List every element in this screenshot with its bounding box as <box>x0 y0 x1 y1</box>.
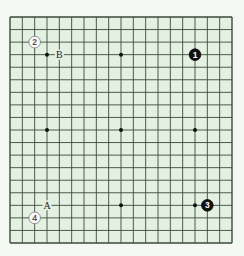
star-point <box>45 53 49 57</box>
stone-number: 3 <box>205 200 210 210</box>
star-point <box>119 128 123 132</box>
go-board: BA1234 <box>0 0 244 256</box>
stone-number: 2 <box>32 37 37 47</box>
stone-number: 1 <box>193 50 198 60</box>
stone-number: 4 <box>32 213 37 223</box>
star-point <box>119 203 123 207</box>
star-point <box>45 128 49 132</box>
board-label-b: B <box>56 49 63 60</box>
star-point <box>193 203 197 207</box>
star-point <box>119 53 123 57</box>
board-label-a: A <box>43 200 51 211</box>
star-point <box>193 128 197 132</box>
